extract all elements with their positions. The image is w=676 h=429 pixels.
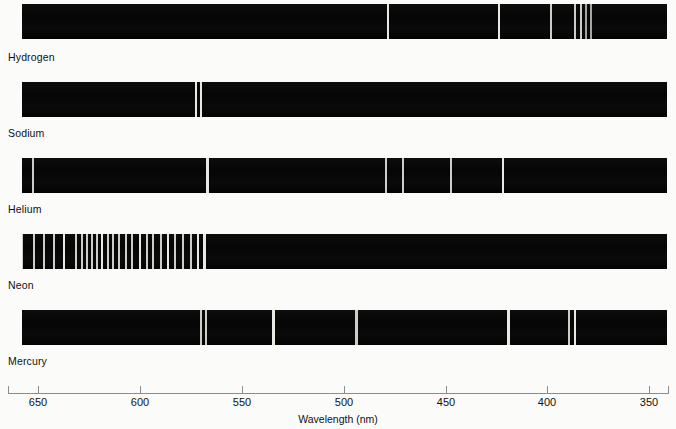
axis-tick <box>547 386 548 394</box>
spectrum-band-mercury <box>22 310 667 345</box>
axis-tick-label: 500 <box>335 396 353 408</box>
emission-line <box>131 234 133 269</box>
emission-line <box>574 310 576 345</box>
spectrum-band-hydrogen <box>22 4 667 39</box>
axis-tick <box>140 386 141 394</box>
spectrum-band-neon <box>22 234 667 269</box>
element-label-mercury: Mercury <box>8 355 47 367</box>
axis-tick-label: 550 <box>233 396 251 408</box>
emission-line <box>32 158 34 193</box>
emission-line <box>174 234 176 269</box>
axis-tick-label: 600 <box>131 396 149 408</box>
spectrum-band-helium <box>22 158 667 193</box>
wavelength-axis: 650600550500450400350 Wavelength (nm) <box>0 383 676 429</box>
emission-line <box>450 158 452 193</box>
axis-tick-label: 650 <box>29 396 47 408</box>
emission-line <box>107 234 109 269</box>
axis-tick <box>38 386 39 394</box>
emission-line <box>91 234 93 269</box>
emission-line <box>75 234 77 269</box>
band-background <box>22 4 667 39</box>
emission-line <box>118 234 120 269</box>
emission-line <box>200 310 202 345</box>
axis-end-cap-left <box>8 386 9 394</box>
emission-line <box>43 234 45 269</box>
emission-line <box>152 234 154 269</box>
emission-line <box>86 234 88 269</box>
emission-line <box>182 234 184 269</box>
band-background <box>22 82 667 117</box>
emission-line <box>574 4 576 39</box>
emission-line <box>160 234 162 269</box>
emission-line <box>96 234 98 269</box>
emission-line <box>550 4 552 39</box>
emission-line <box>101 234 103 269</box>
emission-line <box>585 4 587 39</box>
emission-line <box>507 310 510 345</box>
emission-line <box>200 82 202 117</box>
emission-line <box>502 158 504 193</box>
emission-line <box>146 234 148 269</box>
element-label-neon: Neon <box>8 279 34 291</box>
emission-line <box>112 234 114 269</box>
axis-tick <box>446 386 447 394</box>
emission-line <box>203 234 206 269</box>
emission-line <box>568 310 570 345</box>
element-label-helium: Helium <box>8 203 42 215</box>
emission-line <box>195 82 197 117</box>
axis-tick-label: 450 <box>437 396 455 408</box>
emission-line <box>190 234 192 269</box>
axis-tick <box>649 386 650 394</box>
axis-tick-label: 350 <box>640 396 658 408</box>
emission-line <box>385 158 387 193</box>
emission-line <box>580 4 582 39</box>
axis-tick-label: 400 <box>538 396 556 408</box>
emission-line <box>167 234 169 269</box>
emission-line <box>590 4 592 39</box>
element-label-hydrogen: Hydrogen <box>8 51 55 63</box>
band-background <box>22 158 667 193</box>
axis-end-cap-right <box>668 386 669 394</box>
emission-line <box>22 234 23 269</box>
emission-line <box>197 234 199 269</box>
emission-line <box>139 234 141 269</box>
axis-tick <box>344 386 345 394</box>
emission-line <box>125 234 127 269</box>
axis-tick <box>242 386 243 394</box>
emission-line <box>402 158 404 193</box>
axis-line <box>8 393 669 394</box>
emission-line <box>33 234 35 269</box>
emission-line <box>272 310 275 345</box>
emission-line <box>206 158 209 193</box>
emission-line <box>498 4 500 39</box>
spectrum-band-sodium <box>22 82 667 117</box>
emission-line <box>81 234 83 269</box>
emission-line <box>387 4 389 39</box>
emission-line <box>53 234 55 269</box>
emission-line <box>205 310 207 345</box>
element-label-sodium: Sodium <box>8 127 45 139</box>
axis-title: Wavelength (nm) <box>0 413 676 425</box>
emission-line <box>63 234 65 269</box>
emission-line <box>355 310 358 345</box>
emission-spectra-figure: HydrogenSodiumHeliumNeonMercury 65060055… <box>0 0 676 429</box>
band-background <box>22 310 667 345</box>
